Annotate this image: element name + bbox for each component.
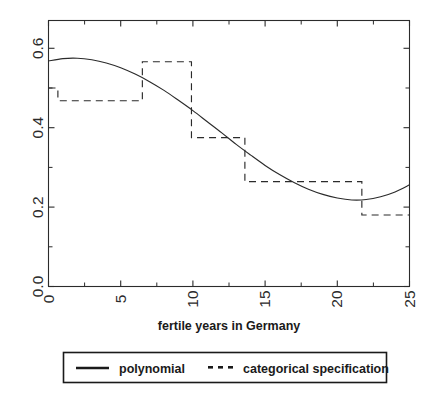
y-axis-tick-labels: 0.00.20.40.6 (29, 38, 46, 298)
x-axis-tick-labels: 0510152025 (40, 290, 418, 308)
y-tick-label: 0.2 (29, 196, 46, 218)
figure-container: 0.00.20.40.6 0510152025 fertile years in… (0, 0, 443, 396)
series-polynomial (49, 58, 410, 200)
legend-label-polynomial: polynomial (119, 362, 185, 376)
x-tick-label: 25 (401, 290, 418, 307)
x-tick-label: 5 (112, 295, 129, 304)
plot-frame (49, 21, 410, 287)
x-axis-label: fertile years in Germany (158, 319, 300, 333)
x-tick-label: 10 (184, 290, 201, 308)
x-axis-minor-ticks (85, 21, 374, 287)
chart-canvas: 0.00.20.40.6 0510152025 fertile years in… (0, 0, 443, 396)
y-axis-major-ticks (49, 48, 410, 286)
y-tick-label: 0.6 (29, 38, 46, 60)
y-tick-label: 0.4 (29, 117, 46, 139)
x-tick-label: 0 (40, 294, 57, 303)
x-tick-label: 20 (328, 290, 345, 308)
y-tick-label: 0.0 (29, 275, 46, 297)
x-axis-major-ticks (49, 21, 410, 287)
legend-label-categorical-specification: categorical specification (243, 362, 389, 376)
y-axis-minor-ticks (49, 88, 410, 247)
x-tick-label: 15 (256, 290, 273, 307)
legend-dotted-line-icon (208, 366, 233, 369)
legend: polynomial categorical specification (64, 353, 389, 383)
